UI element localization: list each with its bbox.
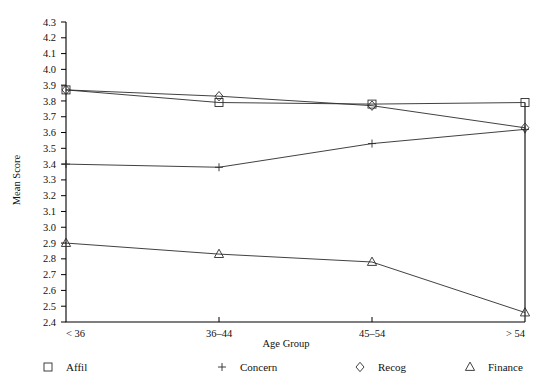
data-point-diamond bbox=[356, 362, 364, 371]
y-axis-tick-labels: 4.34.24.14.03.93.83.73.63.53.43.33.23.13… bbox=[43, 17, 57, 328]
series-affil bbox=[62, 86, 529, 108]
y-tick-label: 3.2 bbox=[43, 190, 56, 201]
y-tick-label: 4.3 bbox=[43, 17, 56, 28]
x-axis-tick-marks bbox=[219, 317, 372, 322]
y-tick-label: 2.9 bbox=[43, 238, 56, 249]
y-tick-label: 4.1 bbox=[43, 48, 56, 59]
data-point-triangle bbox=[465, 362, 474, 370]
y-tick-label: 2.8 bbox=[43, 253, 56, 264]
series-concern bbox=[62, 125, 529, 171]
data-point-triangle bbox=[214, 249, 223, 257]
y-axis-tick-marks bbox=[61, 22, 66, 322]
y-axis-title-group: Mean Score bbox=[11, 154, 22, 205]
y-tick-label: 4.0 bbox=[43, 64, 56, 75]
legend-label: Finance bbox=[488, 361, 523, 373]
series-recog bbox=[62, 85, 529, 132]
y-tick-label: 3.9 bbox=[43, 80, 56, 91]
legend-item-recog[interactable]: Recog bbox=[356, 361, 407, 373]
legend-item-concern[interactable]: Concern bbox=[218, 361, 278, 373]
y-tick-label: 3.4 bbox=[43, 159, 57, 170]
y-tick-label: 3.5 bbox=[43, 143, 56, 154]
y-tick-label: 2.5 bbox=[43, 301, 56, 312]
y-tick-label: 4.2 bbox=[43, 32, 56, 43]
series-line-finance bbox=[66, 243, 525, 312]
chart-legend: AffilConcernRecogFinance bbox=[44, 361, 523, 373]
series-line-affil bbox=[66, 90, 525, 104]
legend-label: Concern bbox=[240, 361, 278, 373]
y-tick-label: 3.1 bbox=[43, 206, 56, 217]
x-tick-label: 36–44 bbox=[206, 328, 233, 339]
series-line-concern bbox=[66, 129, 525, 167]
data-point-square bbox=[44, 363, 52, 371]
series-finance bbox=[61, 238, 529, 316]
x-tick-label: < 36 bbox=[66, 328, 85, 339]
y-tick-label: 2.6 bbox=[43, 285, 56, 296]
y-tick-label: 3.7 bbox=[43, 111, 56, 122]
legend-label: Affil bbox=[66, 361, 87, 373]
series-group bbox=[61, 85, 529, 316]
chart-container: Mean Score 4.34.24.14.03.93.83.73.63.53.… bbox=[0, 0, 544, 382]
legend-item-affil[interactable]: Affil bbox=[44, 361, 87, 373]
data-point-triangle bbox=[367, 257, 376, 265]
y-tick-label: 3.8 bbox=[43, 96, 56, 107]
axis-lines bbox=[66, 22, 525, 322]
plot-frame bbox=[66, 22, 525, 322]
legend-item-finance[interactable]: Finance bbox=[465, 361, 523, 373]
line-chart: Mean Score 4.34.24.14.03.93.83.73.63.53.… bbox=[0, 0, 544, 382]
x-tick-label: > 54 bbox=[506, 328, 526, 339]
y-tick-label: 3.3 bbox=[43, 174, 56, 185]
legend-label: Recog bbox=[378, 361, 407, 373]
y-tick-label: 3.6 bbox=[43, 127, 56, 138]
x-axis-title: Age Group bbox=[263, 338, 310, 349]
y-axis-title: Mean Score bbox=[11, 154, 22, 205]
y-tick-label: 2.7 bbox=[43, 269, 56, 280]
x-tick-label: 45–54 bbox=[359, 328, 386, 339]
y-tick-label: 3.0 bbox=[43, 222, 56, 233]
y-tick-label: 2.4 bbox=[43, 317, 57, 328]
